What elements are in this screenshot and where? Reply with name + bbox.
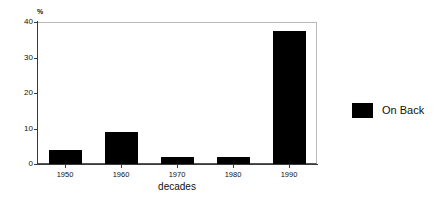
x-tick-label-1980: 1980: [208, 170, 258, 179]
bar-1960: [105, 132, 138, 164]
x-tick-mark: [65, 165, 66, 168]
legend-label-on-back: On Back: [382, 104, 424, 117]
bar-1970: [161, 157, 194, 164]
bar-1990: [273, 31, 306, 164]
y-tick-mark: [34, 164, 37, 165]
x-tick-label-1990: 1990: [264, 170, 314, 179]
x-tick-mark: [233, 165, 234, 168]
x-axis-title: decades: [37, 181, 317, 193]
bar-1980: [217, 157, 250, 164]
x-tick-label-1960: 1960: [96, 170, 146, 179]
bars-layer: [0, 0, 437, 164]
x-tick-mark: [177, 165, 178, 168]
legend: On Back: [352, 103, 424, 118]
bar-chart-figure: % 010203040 19501960197019801990 decades…: [0, 0, 437, 199]
bar-1950: [49, 150, 82, 164]
legend-swatch-on-back: [352, 103, 373, 118]
x-tick-mark: [121, 165, 122, 168]
x-tick-label-1950: 1950: [40, 170, 90, 179]
x-tick-mark: [289, 165, 290, 168]
x-tick-label-1970: 1970: [152, 170, 202, 179]
